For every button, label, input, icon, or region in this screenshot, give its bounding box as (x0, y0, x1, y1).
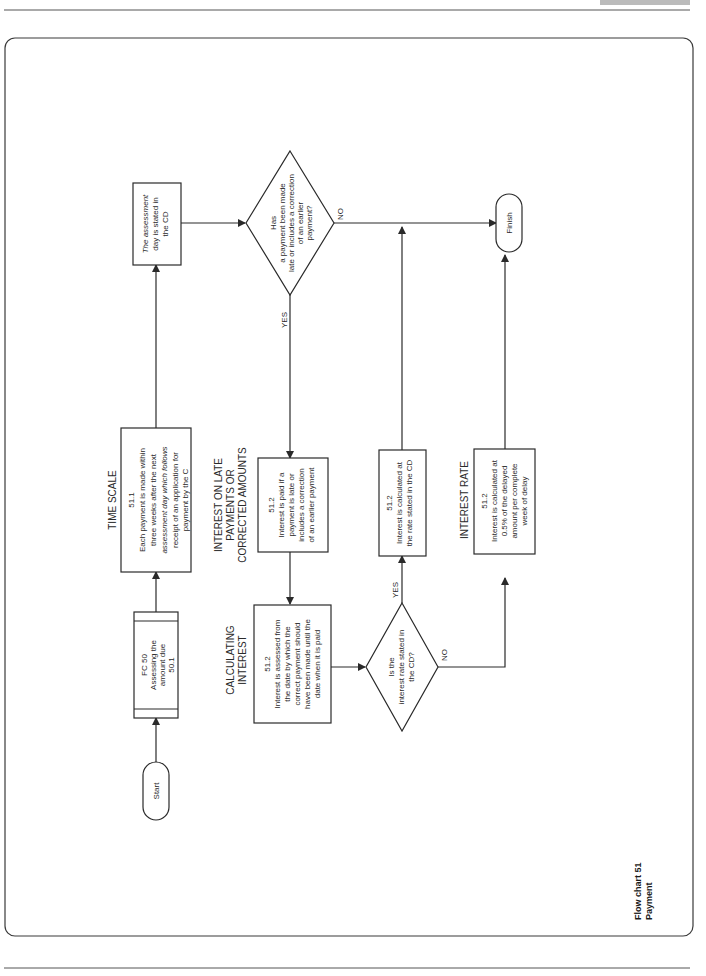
decision-late-no-label: NO (336, 208, 345, 220)
decision-rate-line-2: interest rate stated in (397, 630, 406, 705)
decision-late-line-3: late or includes a correction (287, 174, 296, 272)
node-calculating: CALCULATING INTEREST 51.2 Interest is as… (225, 605, 331, 723)
decision-late-line-4: of an earlier (296, 202, 305, 245)
node-assessment-day: The assessment day is stated in the CD (133, 183, 181, 265)
decision-rate-no-label: NO (440, 649, 449, 661)
calculating-line-6: date when it is paid (313, 630, 322, 699)
decision-late-yes-label: YES (280, 312, 289, 328)
calculating-line-2: Interest is assessed from (273, 619, 282, 708)
decision-late-line-2: a payment been made (278, 183, 287, 263)
finish-label: Finish (505, 212, 514, 233)
interest-late-line-1: 51.2 (267, 497, 276, 513)
calculating-heading-1: CALCULATING (225, 625, 236, 694)
time-scale-line-6: payment by the C (181, 468, 190, 531)
rate-cd-line-3: the rate stated in the CD (405, 459, 414, 546)
decision-late-line-1: Has (269, 216, 278, 230)
time-scale-line-1: 51.1 (127, 492, 136, 508)
interest-rate-line-3: 0.5% of the delayed (500, 466, 509, 537)
time-scale-heading: TIME SCALE (107, 470, 118, 530)
interest-rate-line-4: amount per complete (510, 463, 519, 539)
node-rate-cd: 51.2 Interest is calculated at the rate … (379, 450, 426, 556)
rate-cd-line-1: 51.2 (385, 495, 394, 511)
node-start: Start (143, 762, 169, 820)
node-interest-late: INTEREST ON LATE PAYMENTS OR CORRECTED A… (213, 447, 328, 563)
time-scale-line-2: Each payment is made within (138, 448, 147, 552)
fc50-line-1: FC 50 (140, 654, 149, 676)
calculating-heading-2: INTEREST (237, 635, 248, 684)
flowchart-page: Start FC 50 Assessing the amount due 50.… (0, 0, 706, 976)
time-scale-line-4: assessment day which follows (160, 446, 169, 553)
node-interest-rate: INTEREST RATE 51.2 Interest is calculate… (459, 449, 535, 554)
start-label: Start (152, 782, 161, 800)
interest-late-heading-1: INTEREST ON LATE (213, 458, 224, 552)
node-decision-late: Has a payment been made late or includes… (246, 151, 345, 328)
caption-line-1: Flow chart 51 (633, 862, 643, 920)
interest-rate-heading: INTEREST RATE (459, 461, 470, 539)
caption-line-2: Payment (644, 882, 654, 920)
decision-rate-line-3: the CD? (407, 652, 416, 682)
time-scale-line-3: three weeks after the next (149, 453, 158, 546)
assessment-line-1: The assessment (141, 194, 150, 253)
decision-late-line-5: payment? (305, 205, 314, 241)
interest-late-line-5: of an earlier payment (307, 467, 316, 543)
fc50-line-4: 50.1 (167, 657, 176, 673)
interest-late-heading-2: PAYMENTS OR (225, 469, 236, 540)
interest-rate-line-2: Interest is calculated at (490, 459, 499, 542)
decision-rate-yes-label: YES (391, 582, 400, 598)
node-fc50: FC 50 Assessing the amount due 50.1 (134, 612, 178, 718)
time-scale-line-5: receipt of an application for (171, 452, 180, 548)
interest-rate-line-1: 51.2 (480, 493, 489, 509)
fc50-line-2: Assessing the (149, 640, 158, 690)
header-text-fragment (600, 0, 690, 5)
interest-late-line-3: payment is late or (287, 473, 296, 536)
decision-rate-line-1: Is the (387, 657, 396, 677)
node-decision-rate: Is the interest rate stated in the CD? Y… (366, 582, 449, 731)
calculating-line-4: correct payment should (293, 622, 302, 705)
interest-rate-line-5: week of delay (520, 477, 529, 527)
chart-caption: Flow chart 51 Payment (633, 862, 654, 920)
interest-late-heading-3: CORRECTED AMOUNTS (237, 447, 248, 563)
interest-late-line-4: includes a correction (297, 468, 306, 541)
assessment-line-2: day is stated in (151, 197, 160, 250)
calculating-line-5: have been made until the (303, 619, 312, 709)
node-finish: Finish (496, 194, 522, 252)
interest-late-line-2: Interest is paid if a (277, 472, 286, 537)
node-time-scale: TIME SCALE 51.1 Each payment is made wit… (107, 428, 191, 572)
rate-cd-line-2: Interest is calculated at (395, 461, 404, 544)
calculating-line-3: the date by which the (283, 626, 292, 702)
calculating-line-1: 51.2 (263, 656, 272, 672)
assessment-line-3: the CD (161, 211, 170, 236)
fc50-line-3: amount due (158, 643, 167, 686)
